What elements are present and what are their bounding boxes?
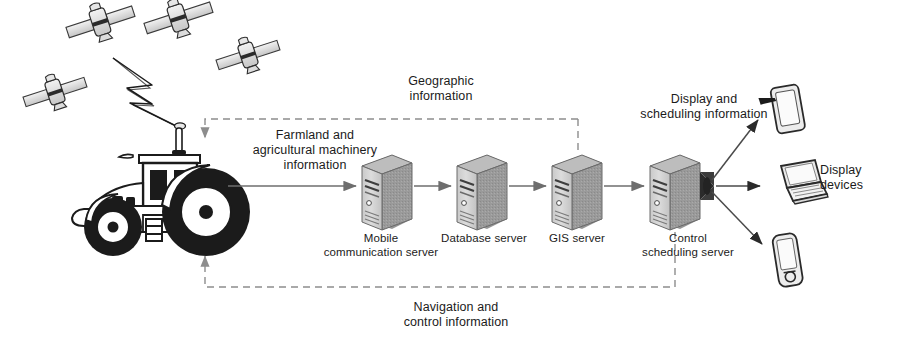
satellite-signal-bolt: [113, 58, 176, 126]
satellite-4: [19, 65, 91, 119]
server-database: [457, 155, 507, 230]
satellite-2: [140, 0, 218, 47]
label-navigation-control-information: Navigation and control information: [348, 300, 564, 330]
diagram-canvas: Geographic information Farmland and agri…: [0, 0, 907, 357]
satellite-3: [212, 28, 284, 82]
distribution-hub-node: [700, 172, 714, 200]
server-gis: [552, 155, 602, 230]
label-uplink-information: Farmland and agricultural machinery info…: [215, 128, 415, 172]
label-geographic-information: Geographic information: [356, 74, 526, 104]
arrow-hub-to-tablet: [712, 120, 758, 180]
server-control: [650, 155, 700, 230]
label-server-control: Control scheduling server: [613, 232, 763, 259]
satellite-1: [62, 0, 140, 51]
smartphone-icon: [772, 232, 804, 287]
label-display-devices: Display devices: [820, 163, 904, 193]
label-display-scheduling-information: Display and scheduling information: [612, 92, 796, 122]
